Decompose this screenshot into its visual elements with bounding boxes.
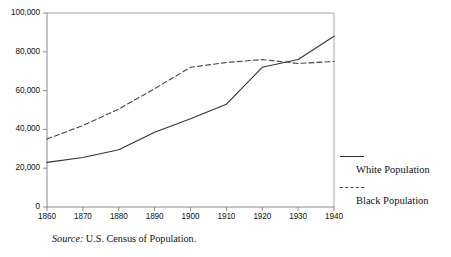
x-axis-tick-label: 1900 (173, 212, 209, 221)
source-keyword: Source: (52, 233, 83, 244)
legend-label-black-population: Black Population (356, 195, 429, 206)
chart-legend: White Population Black Population (338, 152, 451, 214)
x-axis-tick-label: 1890 (137, 212, 173, 221)
x-axis-tick-label: 1860 (29, 212, 65, 221)
y-axis-tick-label: 20,000 (0, 163, 40, 172)
source-text: U.S. Census of Population. (83, 233, 196, 244)
legend-item-white-population: White Population (338, 152, 451, 183)
x-axis-tick-label: 1880 (101, 212, 137, 221)
x-axis-tick-label: 1870 (65, 212, 101, 221)
legend-swatch-dashed (340, 187, 364, 191)
y-axis-ticks (43, 13, 47, 207)
x-axis-tick-label: 1920 (244, 212, 280, 221)
legend-label-white-population: White Population (356, 164, 430, 175)
x-axis-tick-label: 1910 (208, 212, 244, 221)
plot-frame (47, 13, 334, 207)
y-axis-tick-label: 60,000 (0, 86, 40, 95)
y-axis-tick-label: 40,000 (0, 124, 40, 133)
legend-item-black-population: Black Population (338, 183, 451, 214)
x-axis-tick-label: 1930 (280, 212, 316, 221)
y-axis-tick-label: 100,000 (0, 8, 40, 17)
y-axis-tick-label: 0 (0, 202, 40, 211)
legend-swatch-solid (340, 156, 364, 160)
figure-population-chart: 020,00040,00060,00080,000100,000 1860187… (0, 0, 451, 257)
series-line-white-population (47, 36, 334, 162)
y-axis-tick-label: 80,000 (0, 47, 40, 56)
source-caption: Source: U.S. Census of Population. (52, 233, 196, 244)
series-line-black-population (47, 60, 334, 140)
x-axis-ticks (47, 207, 334, 211)
